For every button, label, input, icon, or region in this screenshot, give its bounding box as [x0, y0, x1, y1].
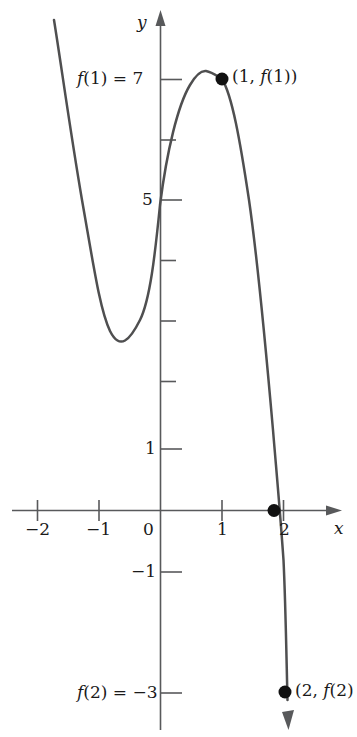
marked-points: [216, 73, 292, 699]
annotation-f-of-2-value: −3: [132, 682, 157, 702]
point-1-label: (1, f(1)): [232, 68, 297, 85]
function-curve: [54, 20, 294, 730]
annotation-f-of-2: f(2) = −3: [77, 684, 158, 701]
point-2-label-open: (2,: [295, 680, 323, 700]
point-2-f2-marker: [279, 686, 292, 699]
annotation-f-of-1-open: (: [83, 68, 90, 88]
x-tick-label--2: −2: [25, 521, 50, 538]
y-tick-label--1: −1: [131, 563, 156, 580]
x-tick-label-1: 1: [217, 521, 228, 538]
point-1-label-open: (1,: [232, 66, 260, 86]
annotation-f-of-1: f(1) = 7: [77, 70, 143, 87]
x-tick-label--1: −1: [86, 521, 111, 538]
point-2-label-inner: (2): [330, 680, 354, 700]
x-axis-arrowhead: [326, 506, 342, 516]
y-axis-label: y: [137, 14, 147, 31]
y-tick-label-1: 1: [145, 440, 156, 457]
annotation-f-of-1-value: 7: [132, 68, 143, 88]
x-tick-label-2: 2: [279, 521, 290, 538]
graph-canvas: [0, 0, 357, 737]
annotation-f-of-2-arg: 2: [90, 682, 101, 702]
point-1-f1-marker: [216, 73, 229, 86]
x-axis: [12, 506, 342, 516]
curve-downward-arrowhead: [282, 710, 294, 730]
y-axis-arrowhead: [156, 10, 166, 26]
point-2-label: (2, f(2): [295, 682, 354, 699]
x-tick-label-0: 0: [143, 521, 154, 538]
curve-path: [54, 20, 288, 700]
annotation-f-of-1-arg: 1: [90, 68, 101, 88]
function-graph-figure: y x −2 −1 0 1 2 5 1 −1 f(1) = 7 (1, f(1)…: [0, 0, 357, 737]
x-intercept-marker: [268, 504, 281, 517]
y-axis-ticks: [160, 80, 182, 694]
y-axis: [156, 10, 166, 730]
x-axis-label: x: [334, 520, 344, 537]
annotation-f-of-2-equals: =: [107, 682, 132, 702]
point-1-label-inner: (1)): [267, 66, 298, 86]
annotation-f-of-1-equals: =: [107, 68, 132, 88]
annotation-f-of-2-open: (: [83, 682, 90, 702]
y-tick-label-5: 5: [142, 191, 153, 208]
